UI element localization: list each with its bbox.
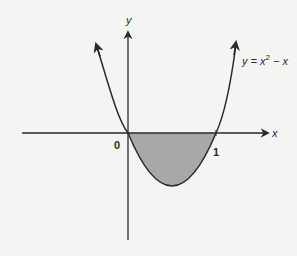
eq-mid: = x: [248, 55, 266, 67]
curve-equation-label: y = x2 − x: [242, 53, 288, 67]
eq-tail: − x: [270, 55, 288, 67]
x-axis-label: x: [272, 127, 278, 139]
curve-arrow-left-icon: [96, 44, 100, 56]
x-tick-label-1: 1: [213, 146, 219, 158]
origin-label: 0: [114, 139, 120, 151]
y-axis-label: y: [126, 14, 132, 26]
curve-arrow-right-icon: [234, 42, 236, 55]
parabola-figure: [0, 0, 297, 256]
